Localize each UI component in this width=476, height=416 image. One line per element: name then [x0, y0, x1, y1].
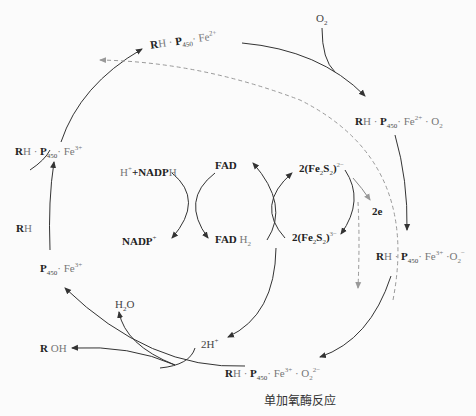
arrow-fe-red-to-ox	[272, 173, 292, 238]
arrow-to-h2o	[119, 312, 175, 365]
protons-2h-label: 2H+	[201, 338, 218, 351]
arrow-s6-to-s1	[61, 49, 142, 142]
arrow-fad-to-fadh2	[196, 173, 215, 238]
arrow-s4-to-s5	[65, 288, 245, 366]
state-rh-p450-fe3-superoxide: RH · P450· Fe3+ ·O2−	[376, 250, 465, 263]
nadp-plus-label: NADP+	[122, 235, 157, 248]
diagram-title: 单加氧酶反应	[264, 391, 336, 408]
monooxygenase-cycle-diagram: O2 RH · P450· Fe2+ RH · P450· Fe2+ · O2 …	[0, 0, 476, 416]
fad-label: FAD	[215, 159, 237, 172]
arrow-s1-to-s2	[242, 43, 365, 96]
electrons-2e-label: 2e	[372, 205, 382, 218]
arrow-nadph-to-nadp	[172, 173, 189, 238]
dashed-electron-path-bottom	[358, 202, 359, 288]
product-roh-label: R OH	[40, 342, 67, 355]
arrow-s3-to-s4	[320, 276, 391, 357]
state-rh-p450-fe3: RH · P450· Fe3+	[15, 145, 82, 158]
state-rh-p450-fe2-o2: RH · P450· Fe2+ · O2	[355, 115, 443, 128]
arrow-to-roh	[72, 348, 175, 365]
oxygen-input-label: O2	[316, 12, 327, 25]
substrate-rh-label: RH	[16, 222, 32, 235]
reaction-arrows	[0, 0, 476, 416]
arrow-to-2e	[353, 178, 370, 200]
arrow-fe-top-to-bot	[341, 170, 354, 234]
dashed-electron-path-top	[100, 60, 398, 300]
ferredoxin-reduced-label: 2(Fe2S2)3−	[292, 231, 337, 244]
fadh2-label: FAD H2	[215, 233, 251, 246]
product-water-label: H2O	[115, 298, 134, 311]
ferredoxin-oxidized-label: 2(Fe2S2)2−	[299, 162, 344, 175]
arrow-s5-to-s6	[50, 162, 55, 250]
arrow-s2-to-s3	[395, 135, 407, 230]
arrow-fadh2-to-2h	[228, 248, 276, 337]
state-rh-p450-fe3-peroxide: RH · P450· Fe3+ · O22−	[225, 367, 320, 380]
state-p450-fe3: P450· Fe3+	[40, 262, 82, 275]
h-nadph-label: H++NADPH	[120, 166, 177, 179]
